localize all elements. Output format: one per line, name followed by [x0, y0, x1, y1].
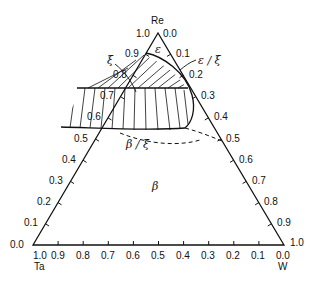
svg-text:0.3: 0.3	[49, 175, 63, 186]
epsilon-phase-label: ε	[155, 43, 161, 56]
svg-text:0.2: 0.2	[226, 250, 240, 261]
svg-text:0.6: 0.6	[126, 250, 140, 261]
svg-text:0.3: 0.3	[201, 250, 215, 261]
re-component-label: Re	[151, 15, 164, 26]
svg-text:0.6: 0.6	[87, 111, 101, 122]
svg-text:0.8: 0.8	[264, 196, 278, 207]
apex-left-label: 1.0	[136, 28, 150, 39]
right-axis-labels: 0.1 0.2 0.3 0.4 0.5 0.6 0.7 0.8 0.9	[176, 48, 291, 228]
svg-text:0.5: 0.5	[74, 133, 88, 144]
svg-text:0.6: 0.6	[239, 154, 253, 165]
svg-text:0.5: 0.5	[151, 250, 165, 261]
triangle-frame	[33, 33, 284, 245]
svg-text:0.1: 0.1	[251, 250, 265, 261]
svg-text:0.4: 0.4	[176, 250, 190, 261]
ta-left-corner-label: 0.0	[10, 239, 24, 250]
beta-xi-label: β / ξ	[125, 138, 150, 151]
svg-text:0.7: 0.7	[252, 175, 266, 186]
xi-phase-label: ξ	[107, 54, 114, 67]
svg-text:0.2: 0.2	[37, 196, 51, 207]
w-right-corner-label: 1.0	[290, 237, 304, 248]
beta-xi-boundary	[185, 128, 222, 141]
svg-text:0.1: 0.1	[24, 217, 38, 228]
epsilon-xi-label: ε / ξ	[198, 54, 222, 67]
svg-text:0.7: 0.7	[100, 90, 114, 101]
apex-right-label: 0.0	[163, 28, 177, 39]
svg-text:0.9: 0.9	[277, 217, 291, 228]
svg-text:0.1: 0.1	[176, 48, 190, 59]
svg-text:0.8: 0.8	[113, 69, 127, 80]
svg-text:0.7: 0.7	[101, 250, 115, 261]
svg-text:0.8: 0.8	[76, 250, 90, 261]
svg-text:0.9: 0.9	[51, 250, 65, 261]
svg-text:0.3: 0.3	[201, 90, 215, 101]
left-axis-labels: 0.1 0.2 0.3 0.4 0.5 0.6 0.7 0.8 0.9	[24, 48, 139, 228]
svg-text:0.2: 0.2	[189, 69, 203, 80]
right-axis-ticks	[167, 54, 271, 226]
ta-below-label: 1.0	[33, 250, 47, 261]
beta-phase-label: β	[151, 180, 158, 193]
w-component-label: W	[278, 261, 288, 272]
ta-component-label: Ta	[34, 261, 45, 272]
svg-text:0.9: 0.9	[125, 48, 139, 59]
ternary-diagram: Re Ta W 1.0 0.0 0.0 1.0 1.0 0.0 0.1 0.2 …	[0, 0, 314, 283]
svg-text:0.4: 0.4	[214, 111, 228, 122]
bottom-axis-labels: 0.9 0.8 0.7 0.6 0.5 0.4 0.3 0.2 0.1	[51, 250, 265, 261]
w-below-label: 0.0	[276, 250, 290, 261]
svg-text:0.4: 0.4	[62, 154, 76, 165]
svg-text:0.5: 0.5	[226, 133, 240, 144]
